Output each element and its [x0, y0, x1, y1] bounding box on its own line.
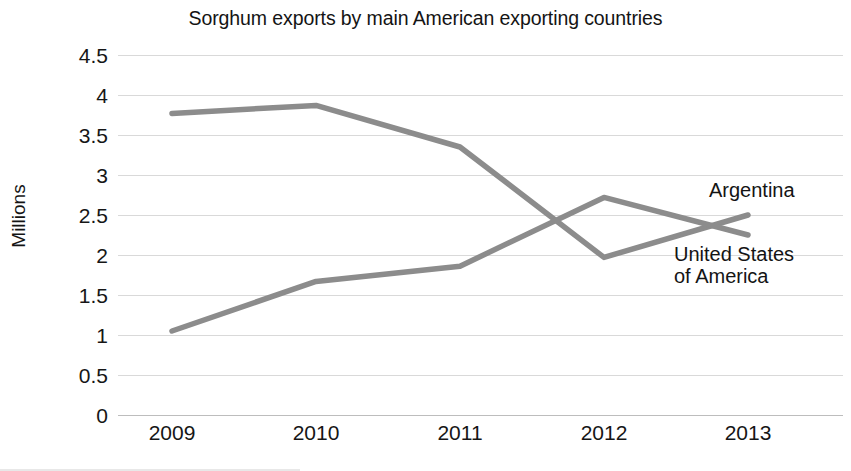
y-tick-label: 1: [48, 325, 108, 346]
x-tick-label: 2011: [400, 421, 520, 445]
series-line: [172, 105, 748, 257]
y-tick-label: 1.5: [48, 285, 108, 306]
x-axis-tick-labels: 20092010201120122013: [118, 421, 843, 455]
y-axis-title: Millions: [8, 161, 30, 271]
line-chart: Sorghum exports by main American exporti…: [0, 0, 851, 471]
y-tick-label: 3: [48, 165, 108, 186]
y-tick-label: 3.5: [48, 125, 108, 146]
y-tick-label: 0: [48, 405, 108, 426]
series-line: [172, 197, 748, 331]
x-tick-label: 2009: [112, 421, 232, 445]
y-tick-label: 4: [48, 85, 108, 106]
x-tick-label: 2013: [688, 421, 808, 445]
gridline: [118, 415, 843, 416]
y-tick-label: 4.5: [48, 45, 108, 66]
series-label-argentina: Argentina: [709, 179, 795, 201]
series-label-usa-line-2: of America: [674, 265, 794, 287]
plot-area: [118, 55, 843, 415]
x-tick-label: 2010: [256, 421, 376, 445]
x-tick-label: 2012: [544, 421, 664, 445]
series-label-usa-line-1: United States: [674, 243, 794, 265]
y-tick-label: 0.5: [48, 365, 108, 386]
y-axis-tick-labels: 4.543.532.521.510.50: [38, 55, 108, 415]
y-tick-label: 2.5: [48, 205, 108, 226]
chart-title: Sorghum exports by main American exporti…: [0, 7, 851, 30]
series-lines: [118, 55, 843, 415]
series-label-argentina-text: Argentina: [709, 179, 795, 201]
series-label-united-states-of-america: United States of America: [674, 243, 794, 288]
y-tick-label: 2: [48, 245, 108, 266]
